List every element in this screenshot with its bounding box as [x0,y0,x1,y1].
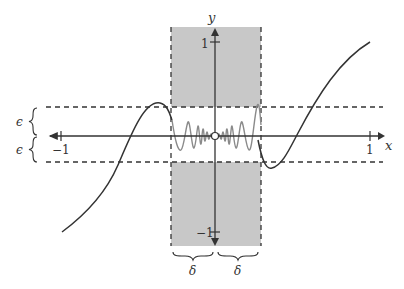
delta-label-left: δ [189,264,196,278]
y-tick-neg1: −1 [196,226,214,240]
y-axis-label: y [207,10,216,25]
function-curve-right [258,42,370,168]
epsilon-delta-diagram: y x 1 −1 −1 1 ϵ ϵ δ δ [0,0,404,289]
oscillating-function [172,104,261,150]
epsilon-label-upper: ϵ [16,115,23,129]
delta-braces [173,252,258,260]
x-tick-1: 1 [366,143,374,157]
x-axis-label: x [385,138,393,153]
x-tick-neg1: −1 [52,143,70,157]
origin-hole [212,133,219,140]
function-curve [62,103,172,232]
y-tick-1: 1 [201,37,209,51]
epsilon-braces [29,108,37,162]
delta-label-right: δ [234,264,241,278]
epsilon-label-lower: ϵ [16,143,23,157]
